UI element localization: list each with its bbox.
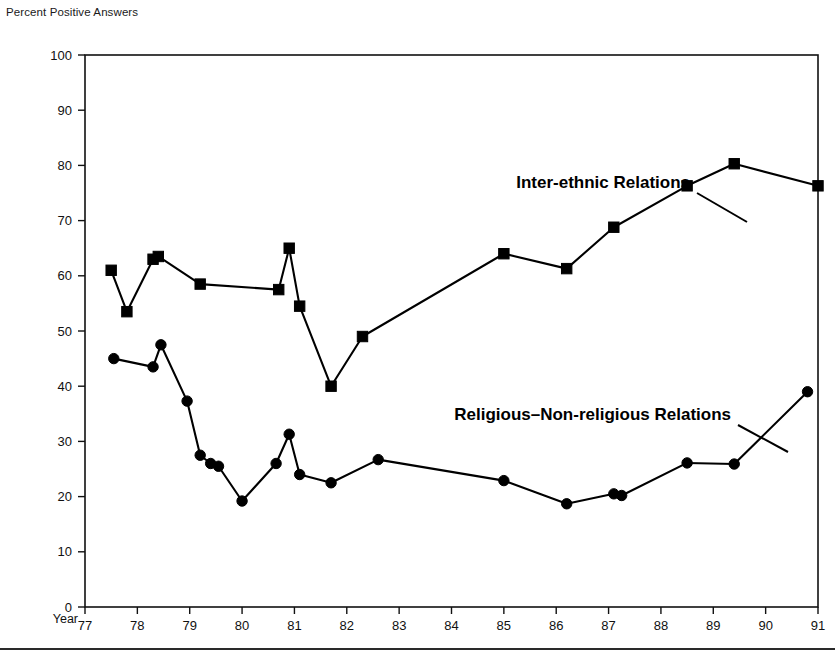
data-point-marker bbox=[729, 159, 739, 169]
data-point-marker bbox=[294, 469, 304, 479]
y-tick-label: 60 bbox=[58, 268, 72, 283]
x-tick-label: 84 bbox=[444, 618, 458, 633]
y-tick-label: 80 bbox=[58, 158, 72, 173]
data-point-marker bbox=[271, 458, 281, 468]
data-point-marker bbox=[237, 496, 247, 506]
y-tick-label: 10 bbox=[58, 544, 72, 559]
x-tick-label: 80 bbox=[235, 618, 249, 633]
data-point-marker bbox=[682, 458, 692, 468]
footer-rule bbox=[0, 648, 835, 650]
chart-plot: 0102030405060708090100 77787980818283848… bbox=[0, 0, 835, 648]
data-point-marker bbox=[609, 222, 619, 232]
x-tick-label: 91 bbox=[811, 618, 825, 633]
data-point-marker bbox=[499, 475, 509, 485]
x-tick-label: 78 bbox=[130, 618, 144, 633]
data-point-marker bbox=[326, 381, 336, 391]
data-point-marker bbox=[106, 265, 116, 275]
x-tick-label: 89 bbox=[706, 618, 720, 633]
y-tick-label: 70 bbox=[58, 213, 72, 228]
annotation-leader-line bbox=[738, 425, 788, 452]
y-tick-label: 30 bbox=[58, 434, 72, 449]
y-tick-label: 100 bbox=[50, 48, 72, 63]
data-point-marker bbox=[153, 251, 163, 261]
annotation-leader-line bbox=[697, 193, 747, 222]
data-point-marker bbox=[357, 331, 367, 341]
data-point-marker bbox=[213, 461, 223, 471]
data-point-marker bbox=[156, 340, 166, 350]
chart-page: Percent Positive Answers 010203040506070… bbox=[0, 0, 835, 661]
data-point-marker bbox=[274, 284, 284, 294]
data-point-marker bbox=[195, 450, 205, 460]
y-tick-label: 50 bbox=[58, 324, 72, 339]
data-point-marker bbox=[813, 181, 823, 191]
series-inter-ethnic bbox=[106, 159, 823, 392]
y-axis-ticks: 0102030405060708090100 bbox=[50, 48, 85, 615]
y-tick-label: 20 bbox=[58, 489, 72, 504]
data-point-marker bbox=[122, 306, 132, 316]
plot-frame bbox=[85, 55, 818, 607]
data-point-marker bbox=[561, 263, 571, 273]
data-point-marker bbox=[802, 387, 812, 397]
data-point-marker bbox=[109, 353, 119, 363]
x-tick-label: 77 bbox=[78, 618, 92, 633]
series-annotation-label: Religious–Non-religious Relations bbox=[454, 405, 731, 424]
data-point-marker bbox=[499, 249, 509, 259]
y-tick-label: 40 bbox=[58, 379, 72, 394]
x-tick-label: 83 bbox=[392, 618, 406, 633]
y-tick-label: 90 bbox=[58, 103, 72, 118]
data-point-marker bbox=[195, 279, 205, 289]
x-tick-label: 85 bbox=[497, 618, 511, 633]
x-axis-ticks: 777879808182838485868788899091 bbox=[78, 607, 825, 633]
data-point-marker bbox=[284, 243, 294, 253]
series-annotation-label: Inter-ethnic Relations bbox=[516, 173, 690, 192]
x-tick-label: 90 bbox=[758, 618, 772, 633]
data-point-marker bbox=[182, 396, 192, 406]
x-axis-name: Year bbox=[53, 612, 78, 626]
x-tick-label: 86 bbox=[549, 618, 563, 633]
series-line bbox=[111, 164, 818, 386]
data-point-marker bbox=[616, 490, 626, 500]
x-tick-label: 88 bbox=[654, 618, 668, 633]
x-tick-label: 79 bbox=[182, 618, 196, 633]
data-point-marker bbox=[561, 499, 571, 509]
data-point-marker bbox=[373, 454, 383, 464]
data-point-marker bbox=[729, 459, 739, 469]
series-line bbox=[114, 345, 808, 504]
data-point-marker bbox=[148, 362, 158, 372]
x-tick-label: 82 bbox=[340, 618, 354, 633]
annotation-group: Inter-ethnic RelationsReligious–Non-reli… bbox=[454, 173, 788, 452]
series-religious-nonreligious bbox=[109, 340, 813, 509]
data-point-marker bbox=[294, 301, 304, 311]
x-tick-label: 81 bbox=[287, 618, 301, 633]
data-point-marker bbox=[326, 478, 336, 488]
x-tick-label: 87 bbox=[601, 618, 615, 633]
data-point-marker bbox=[284, 429, 294, 439]
series-group bbox=[106, 159, 823, 509]
